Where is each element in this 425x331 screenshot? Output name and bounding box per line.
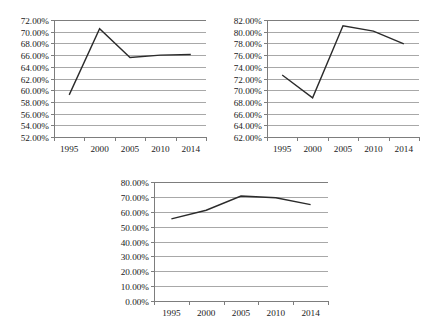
y-axis-tick-label: 64.00%: [21, 63, 50, 73]
chart-3-canvas: 0.00%10.00%20.00%30.00%40.00%50.00%60.00…: [96, 170, 336, 328]
y-axis-tick-label: 80.00%: [121, 178, 150, 188]
y-axis-tick-label: 62.00%: [21, 75, 50, 85]
x-axis-tick-label: 2010: [267, 308, 286, 318]
line-chart-2: 62.00%64.00%66.00%68.00%70.00%72.00%74.0…: [213, 6, 425, 162]
y-axis-tick-label: 72.00%: [234, 75, 263, 85]
y-axis-tick-label: 66.00%: [234, 110, 263, 120]
y-axis-tick-label: 30.00%: [121, 252, 150, 262]
y-axis-tick-label: 10.00%: [121, 282, 150, 292]
x-axis-tick-label: 1995: [60, 144, 79, 154]
x-axis-tick-label: 2010: [364, 144, 383, 154]
chart-1-canvas: 52.00%54.00%56.00%58.00%60.00%62.00%64.0…: [0, 6, 212, 162]
series-line-1: [69, 29, 191, 95]
chart-2-canvas: 62.00%64.00%66.00%68.00%70.00%72.00%74.0…: [213, 6, 425, 162]
y-axis-tick-label: 76.00%: [234, 51, 263, 61]
x-axis-tick-label: 1995: [273, 144, 292, 154]
x-axis-tick-label: 2014: [301, 308, 320, 318]
x-axis-tick-label: 2005: [232, 308, 251, 318]
y-axis-tick-label: 52.00%: [21, 133, 50, 143]
y-axis-tick-label: 0.00%: [125, 297, 149, 307]
series-line-1: [171, 196, 310, 219]
y-axis-tick-label: 74.00%: [234, 63, 263, 73]
y-axis-tick-label: 62.00%: [234, 133, 263, 143]
x-axis-tick-label: 2010: [151, 144, 170, 154]
y-axis-tick-label: 72.00%: [21, 16, 50, 26]
line-chart-1: 52.00%54.00%56.00%58.00%60.00%62.00%64.0…: [0, 6, 212, 162]
x-axis-tick-label: 2000: [90, 144, 109, 154]
x-axis-tick-label: 2005: [121, 144, 140, 154]
x-axis-tick-label: 2000: [303, 144, 322, 154]
y-axis-tick-label: 80.00%: [234, 28, 263, 38]
y-axis-tick-label: 40.00%: [121, 238, 150, 248]
y-axis-tick-label: 68.00%: [21, 39, 50, 49]
y-axis-tick-label: 64.00%: [234, 121, 263, 131]
y-axis-tick-label: 68.00%: [234, 98, 263, 108]
line-chart-3: 0.00%10.00%20.00%30.00%40.00%50.00%60.00…: [96, 170, 336, 328]
x-axis-tick-label: 2005: [334, 144, 353, 154]
y-axis-tick-label: 66.00%: [21, 51, 50, 61]
y-axis-tick-label: 58.00%: [21, 98, 50, 108]
y-axis-tick-label: 82.00%: [234, 16, 263, 26]
x-axis-tick-label: 2014: [182, 144, 201, 154]
y-axis-tick-label: 56.00%: [21, 110, 50, 120]
y-axis-tick-label: 60.00%: [121, 208, 150, 218]
y-axis-tick-label: 78.00%: [234, 39, 263, 49]
y-axis-tick-label: 20.00%: [121, 267, 150, 277]
y-axis-tick-label: 60.00%: [21, 86, 50, 96]
x-axis-tick-label: 1995: [162, 308, 181, 318]
series-line-1: [282, 26, 404, 98]
y-axis-tick-label: 50.00%: [121, 223, 150, 233]
y-axis-tick-label: 70.00%: [121, 193, 150, 203]
x-axis-tick-label: 2000: [197, 308, 216, 318]
y-axis-tick-label: 70.00%: [21, 28, 50, 38]
x-axis-tick-label: 2014: [395, 144, 414, 154]
y-axis-tick-label: 54.00%: [21, 121, 50, 131]
y-axis-tick-label: 70.00%: [234, 86, 263, 96]
